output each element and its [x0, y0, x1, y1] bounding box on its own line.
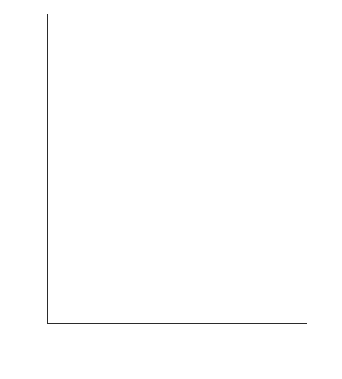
x-axis-line	[47, 323, 307, 324]
figure-container	[0, 0, 342, 379]
y-axis-line	[47, 14, 48, 324]
caption-ghost-text	[0, 370, 342, 379]
plot-area	[48, 14, 306, 323]
chart-svg	[48, 14, 306, 323]
